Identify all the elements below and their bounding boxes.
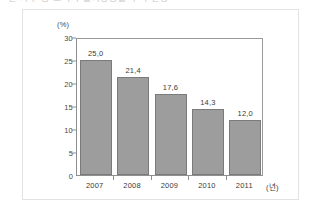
- bar-value-label: 12,0: [238, 109, 253, 118]
- bar-group[interactable]: 14,3: [192, 37, 224, 175]
- x-axis-tick-label: 2010: [198, 181, 216, 190]
- bar-value-label: 17,6: [163, 83, 178, 92]
- plot-area: 25,021,417,614,312,0: [76, 38, 263, 176]
- x-axis-tick-label: 2007: [86, 181, 104, 190]
- page-caption-strip: 일 가구 중 소비자 물가상승률 추이 현황: [0, 0, 324, 7]
- bar-value-label: 21,4: [125, 66, 140, 75]
- bar-group[interactable]: 17,6: [155, 37, 187, 175]
- bar[interactable]: [192, 109, 224, 175]
- bars-layer: 25,021,417,614,312,0: [77, 39, 262, 175]
- x-axis-tick-mark: [226, 176, 227, 180]
- bar[interactable]: [155, 94, 187, 175]
- y-axis-unit-label: (%): [57, 20, 69, 29]
- page-caption-text: 일 가구 중 소비자 물가상승률 추이 현황: [8, 0, 169, 4]
- bar-group[interactable]: 21,4: [117, 37, 149, 175]
- x-axis-tick-label: 2011: [236, 181, 253, 190]
- bar-group[interactable]: 25,0: [80, 37, 112, 175]
- x-axis-tick-mark: [188, 176, 189, 180]
- bar[interactable]: [229, 120, 261, 175]
- x-axis-tick-mark: [113, 176, 114, 180]
- bar-group[interactable]: 12,0: [229, 37, 261, 175]
- x-axis-tick-labels: 20072008200920102011: [76, 181, 263, 193]
- bar[interactable]: [80, 60, 112, 175]
- bar-value-label: 14,3: [200, 98, 215, 107]
- x-axis-unit-label: (년): [266, 181, 279, 192]
- x-axis-tick-marks: [76, 176, 263, 180]
- x-axis-tick-mark: [151, 176, 152, 180]
- x-axis-tick-label: 2008: [123, 181, 141, 190]
- bar[interactable]: [117, 77, 149, 175]
- bar-value-label: 25,0: [88, 49, 103, 58]
- x-axis-tick-label: 2009: [161, 181, 179, 190]
